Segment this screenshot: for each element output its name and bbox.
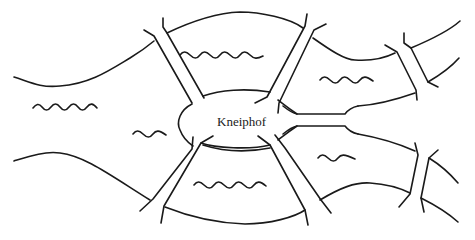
east-island-north-shore <box>358 93 415 106</box>
water-wave-south-middle <box>194 182 266 188</box>
bridge-2-left-rail <box>255 14 307 103</box>
water-wave-north-east <box>320 77 373 83</box>
north-bank-shore-left <box>14 41 154 86</box>
north-bank-shore-right <box>313 38 395 60</box>
south-bank-shore-right <box>320 183 410 200</box>
water-wave-south-east <box>318 155 355 161</box>
bridge-5-west-cap-bottom <box>278 126 297 140</box>
bridge-2-right-rail <box>278 24 326 113</box>
kneiphof-top-shore <box>203 90 270 96</box>
island-label-kneiphof: Kneiphof <box>217 114 267 129</box>
konigsberg-bridges-diagram: Kneiphof <box>0 0 475 240</box>
east-island-south-shore <box>358 134 415 151</box>
bridge-3-left-rail <box>140 137 193 211</box>
south-bank-shore-middle <box>165 207 305 224</box>
bridge-7-left-rail <box>399 143 418 207</box>
south-bank-shore-left <box>14 153 150 200</box>
south-far-right-upper-shore <box>429 158 458 183</box>
water-wave-central-west <box>133 131 166 137</box>
bridge-5-west-cap-top <box>278 100 297 114</box>
bridge-4-right-rail <box>275 135 331 213</box>
water-wave-west <box>33 104 97 110</box>
water-wave-north-middle <box>180 52 263 58</box>
south-far-right-lower-shore <box>421 198 458 222</box>
north-bank-shore-far-right <box>411 21 460 48</box>
bridge-1-left-rail <box>144 30 192 103</box>
north-far-right-lower-shore <box>428 58 459 82</box>
north-bank-shore-middle <box>167 12 303 33</box>
kneiphof-west-bulge <box>179 104 194 146</box>
bridge-6-left-rail <box>385 45 417 100</box>
